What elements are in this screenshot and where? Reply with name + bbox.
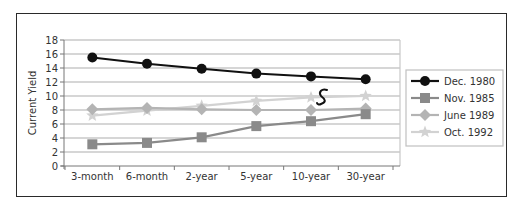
y-axis-label: Current Yield [27,71,38,136]
data-point [360,90,372,102]
legend-item: Dec. 1980 [411,76,495,87]
yield-curve-chart: 024681012141618 3-month6-month2-year5-ye… [0,0,521,211]
data-point [305,91,317,103]
series-oct-1992 [86,90,372,121]
x-category-label: 3-month [71,171,113,182]
legend-label: Dec. 1980 [444,76,495,87]
y-tick-label: 2 [52,147,58,158]
y-tick-label: 6 [52,119,58,130]
series-nov-1985 [87,109,370,149]
x-category-label: 5-year [240,171,273,182]
data-point [361,74,371,84]
data-point [306,71,316,81]
y-tick-label: 18 [45,35,58,46]
legend-item: June 1989 [411,109,494,121]
y-tick-label: 8 [52,105,58,116]
x-category-label: 2-year [186,171,219,182]
data-point [305,104,317,116]
y-tick-label: 4 [52,133,58,144]
data-point [142,138,152,148]
data-point [87,139,97,149]
x-axis-ticks: 3-month6-month2-year5-year10-year30-year [65,166,393,182]
x-category-label: 10-year [292,171,331,182]
series-lines [86,53,372,150]
legend-marker-icon [420,76,430,86]
y-tick-label: 12 [45,77,58,88]
data-point [251,69,261,79]
data-point [250,104,262,116]
y-tick-label: 14 [45,63,58,74]
y-tick-label: 0 [52,161,58,172]
legend-marker-icon [420,93,430,103]
legend-item: Nov. 1985 [411,93,495,104]
data-point [87,53,97,63]
y-axis-ticks: 024681012141618 [45,35,64,172]
legend: Dec. 1980Nov. 1985June 1989Oct. 1992 [406,70,503,146]
data-point [197,64,207,74]
legend-label: Oct. 1992 [444,127,493,138]
data-point [306,116,316,126]
legend-label: June 1989 [443,110,494,121]
data-point [361,109,371,119]
y-tick-label: 16 [45,49,58,60]
data-point [197,132,207,142]
data-point [251,121,261,131]
y-tick-label: 10 [45,91,58,102]
legend-label: Nov. 1985 [444,93,495,104]
data-point [142,59,152,69]
x-category-label: 30-year [346,171,385,182]
x-category-label: 6-month [126,171,168,182]
